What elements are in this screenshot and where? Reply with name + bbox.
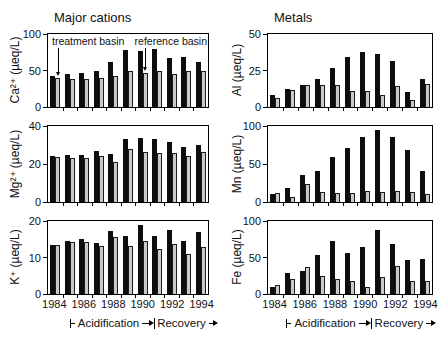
mn-reference-bar-1989 (350, 193, 355, 202)
ca-plot-area: treatment basin reference basin 050100 (47, 33, 209, 108)
mg-x-tick (121, 203, 122, 206)
k-group-1993 (179, 221, 194, 294)
k-x-label-1984: 1984 (42, 298, 66, 310)
k-x-label-1988: 1988 (101, 298, 125, 310)
ca-reference-bar-1994 (201, 71, 206, 108)
fe-x-label-1992: 1992 (383, 298, 407, 310)
mn-reference-bar-1994 (425, 194, 430, 202)
al-group-1990 (357, 34, 372, 107)
ca-x-tick (63, 108, 64, 111)
ca-y-tick-label: 0 (15, 102, 41, 113)
ca-reference-bar-1990 (143, 73, 148, 107)
fe-plot-area: 050100 (267, 220, 433, 295)
right-column-title: Metals (274, 10, 312, 25)
k-reference-bar-1987 (99, 246, 104, 294)
mn-y-tick (263, 126, 268, 127)
figure: Major cations Metals Ca²⁺ (µeq/L) Mg²⁺ (… (0, 0, 439, 350)
fe-group-1988 (328, 221, 343, 294)
k-reference-bar-1985 (70, 242, 75, 294)
fe-y-tick-label: 0 (235, 289, 261, 300)
mg-plot-area: 02040 (47, 125, 209, 203)
mn-x-tick (298, 203, 299, 206)
mg-reference-bar-1986 (84, 158, 89, 202)
ca-x-tick (106, 108, 107, 111)
k-reference-bar-1992 (172, 244, 177, 294)
mn-group-1992 (387, 126, 402, 202)
mg-x-tick (63, 203, 64, 206)
treatment-arrow-icon (58, 48, 59, 72)
acidification-label: Acidification (78, 317, 139, 329)
fe-group-1986 (298, 221, 313, 294)
recovery-label: Recovery (375, 317, 424, 329)
treatment-basin-label: treatment basin (52, 35, 124, 47)
phase-annotation-right: Acidification Recovery (286, 316, 436, 330)
al-reference-bar-1986 (305, 85, 310, 107)
mg-reference-bar-1993 (186, 156, 191, 202)
al-y-tick (263, 70, 268, 71)
ca-reference-bar-1985 (70, 79, 75, 107)
mg-group-1987 (92, 126, 107, 202)
al-reference-bar-1987 (320, 85, 325, 107)
mg-group-1989 (121, 126, 136, 202)
mn-group-1984 (268, 126, 283, 202)
right-arrow-icon (213, 320, 218, 326)
mg-group-1988 (106, 126, 121, 202)
al-x-tick (313, 108, 314, 111)
mn-y-tick (263, 164, 268, 165)
fe-y-tick (263, 257, 268, 258)
mg-reference-bar-1992 (172, 153, 177, 202)
al-x-tick (372, 108, 373, 111)
k-group-1988 (106, 221, 121, 294)
mn-y-tick (263, 202, 268, 203)
fe-reference-bar-1985 (290, 279, 295, 294)
al-x-tick (417, 108, 418, 111)
mn-x-tick (343, 203, 344, 206)
k-plot-area: 01020 (47, 220, 209, 295)
al-x-tick (387, 108, 388, 111)
mg-x-tick (106, 203, 107, 206)
k-reference-bar-1994 (201, 247, 206, 294)
ca-y-tick-label: 100 (15, 29, 41, 40)
mn-x-tick (313, 203, 314, 206)
k-group-1994 (193, 221, 208, 294)
ca-x-tick (164, 108, 165, 111)
phase-line (71, 323, 75, 324)
al-y-tick-label: 50 (235, 29, 261, 40)
fe-reference-bar-1994 (425, 281, 430, 294)
mg-x-tick (179, 203, 180, 206)
mn-group-1990 (357, 126, 372, 202)
mg-reference-bar-1985 (70, 158, 75, 202)
mn-plot-area: 050100 (267, 125, 433, 203)
fe-y-tick (263, 221, 268, 222)
k-reference-bar-1993 (186, 254, 191, 294)
fe-reference-bar-1992 (395, 266, 400, 294)
al-x-tick (343, 108, 344, 111)
al-group-1985 (283, 34, 298, 107)
fe-x-label-1986: 1986 (292, 298, 316, 310)
al-reference-bar-1988 (335, 85, 340, 107)
k-y-tick (43, 294, 48, 295)
mn-x-tick (283, 203, 284, 206)
mg-y-tick (43, 126, 48, 127)
mn-y-tick-label: 100 (235, 121, 261, 132)
mg-group-1986 (77, 126, 92, 202)
al-group-1988 (328, 34, 343, 107)
ca-reference-bar-1984 (55, 78, 60, 107)
mn-reference-bar-1991 (380, 192, 385, 202)
ca-reference-bar-1986 (84, 79, 89, 107)
mg-x-tick (135, 203, 136, 206)
mn-y-tick-label: 0 (235, 197, 261, 208)
al-reference-bar-1991 (380, 95, 385, 107)
fe-y-tick-label: 100 (235, 216, 261, 227)
ca-reference-bar-1991 (157, 71, 162, 108)
k-group-1990 (135, 221, 150, 294)
k-group-1989 (121, 221, 136, 294)
ca-y-tick (43, 107, 48, 108)
fe-x-label-1988: 1988 (323, 298, 347, 310)
k-reference-bar-1984 (55, 245, 60, 294)
al-x-tick (283, 108, 284, 111)
fe-group-1994 (417, 221, 432, 294)
mn-group-1994 (417, 126, 432, 202)
al-x-tick (328, 108, 329, 111)
mn-reference-bar-1990 (365, 191, 370, 202)
